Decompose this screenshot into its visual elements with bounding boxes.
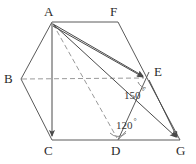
vectors-from-a xyxy=(52,23,177,137)
vertex-label-a: A xyxy=(44,5,53,18)
angle-label-150: 150° xyxy=(124,88,145,101)
geometry-diagram: A F B E C D G 150° 120° xyxy=(0,0,196,164)
vertex-label-g: G xyxy=(176,144,185,157)
edge-b-c xyxy=(21,79,52,140)
degree-symbol-120: ° xyxy=(134,117,137,126)
degree-symbol-150: ° xyxy=(142,87,145,96)
vertex-label-d: D xyxy=(111,144,120,157)
angle-value-120: 120 xyxy=(116,119,133,131)
vertex-label-e: E xyxy=(154,65,162,78)
dashed-line-a-d xyxy=(53,24,117,138)
vector-a-e-secondary xyxy=(53,26,143,77)
vertex-label-b: B xyxy=(4,72,13,85)
angle-value-150: 150 xyxy=(124,89,141,101)
vector-e-g xyxy=(149,80,177,137)
edge-a-b xyxy=(21,22,52,79)
dashed-line-b-e xyxy=(22,78,144,79)
vector-a-e xyxy=(53,24,143,76)
vertex-label-f: F xyxy=(110,5,117,18)
angle-label-120: 120° xyxy=(116,118,137,131)
vector-a-g xyxy=(54,25,176,137)
hexagon-outline xyxy=(21,22,180,140)
vertex-label-c: C xyxy=(44,144,53,157)
figure-canvas xyxy=(0,0,196,164)
